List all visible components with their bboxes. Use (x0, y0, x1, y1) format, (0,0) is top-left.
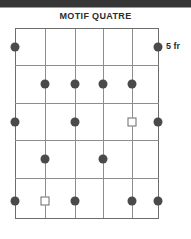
filled-circle-icon (11, 197, 20, 206)
gridline-horizontal-1 (15, 65, 159, 66)
row-annotation-label: 5 fr (166, 41, 180, 51)
scan-top-bar (0, 0, 191, 7)
gridline-vertical-3 (103, 28, 104, 219)
page-title: MOTIF QUATRE (0, 11, 191, 21)
gridline-horizontal-4 (15, 178, 159, 179)
filled-circle-icon (154, 43, 163, 52)
filled-circle-icon (99, 80, 108, 89)
filled-circle-icon (71, 118, 80, 127)
filled-circle-icon (41, 155, 50, 164)
gridline-horizontal-0 (15, 28, 159, 29)
filled-circle-icon (11, 118, 20, 127)
scan-top-bar-shadow (0, 7, 191, 8)
open-square-icon (128, 118, 137, 127)
gridline-horizontal-5 (15, 218, 159, 219)
gridline-vertical-1 (45, 28, 46, 219)
open-square-icon (41, 197, 50, 206)
filled-circle-icon (154, 118, 163, 127)
gridline-horizontal-3 (15, 140, 159, 141)
screenshot-canvas: MOTIF QUATRE 5 fr (0, 0, 191, 239)
filled-circle-icon (41, 80, 50, 89)
motif-grid (15, 28, 159, 219)
gridline-horizontal-2 (15, 103, 159, 104)
filled-circle-icon (71, 80, 80, 89)
filled-circle-icon (128, 197, 137, 206)
filled-circle-icon (154, 197, 163, 206)
filled-circle-icon (11, 43, 20, 52)
filled-circle-icon (99, 155, 108, 164)
filled-circle-icon (71, 197, 80, 206)
filled-circle-icon (128, 80, 137, 89)
